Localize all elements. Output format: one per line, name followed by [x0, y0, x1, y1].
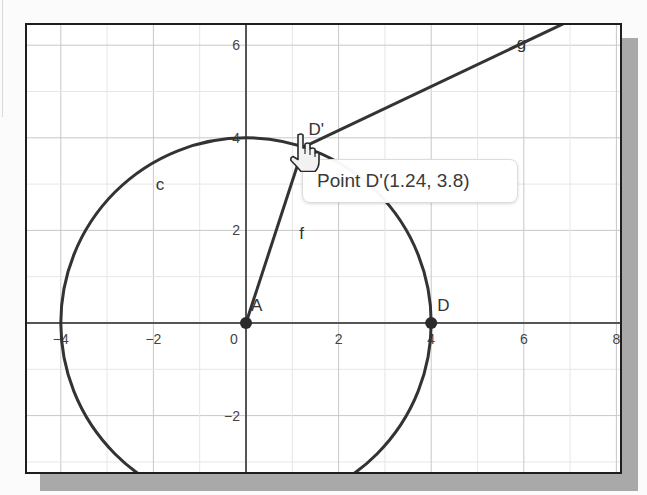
- segment-f-label: f: [299, 224, 304, 243]
- x-tick-label: 6: [520, 331, 528, 347]
- grid: [27, 25, 622, 474]
- y-tick-label: 2: [232, 222, 240, 238]
- point-d-label: D: [437, 296, 449, 315]
- point-a-label: A: [251, 296, 263, 315]
- window-edge-line: [2, 0, 3, 117]
- axes: [27, 25, 622, 474]
- point-d[interactable]: [425, 317, 437, 329]
- x-tick-label: −2: [145, 331, 161, 347]
- y-tick-label: 6: [232, 37, 240, 53]
- graphics-canvas[interactable]: −4−202468642−2 c f g A D D': [27, 25, 622, 474]
- line-g-label: g: [517, 34, 526, 53]
- hand-pointer-icon: [286, 132, 322, 172]
- graphics-view[interactable]: −4−202468642−2 c f g A D D': [25, 23, 622, 474]
- x-tick-label: 2: [335, 331, 343, 347]
- point-tooltip: Point D'(1.24, 3.8): [302, 159, 518, 203]
- circle-c-label: c: [156, 175, 165, 194]
- point-a[interactable]: [240, 317, 252, 329]
- x-tick-label: 8: [613, 331, 621, 347]
- tooltip-text: Point D'(1.24, 3.8): [317, 170, 470, 192]
- y-tick-label: −2: [224, 408, 240, 424]
- x-tick-label: 0: [230, 331, 238, 347]
